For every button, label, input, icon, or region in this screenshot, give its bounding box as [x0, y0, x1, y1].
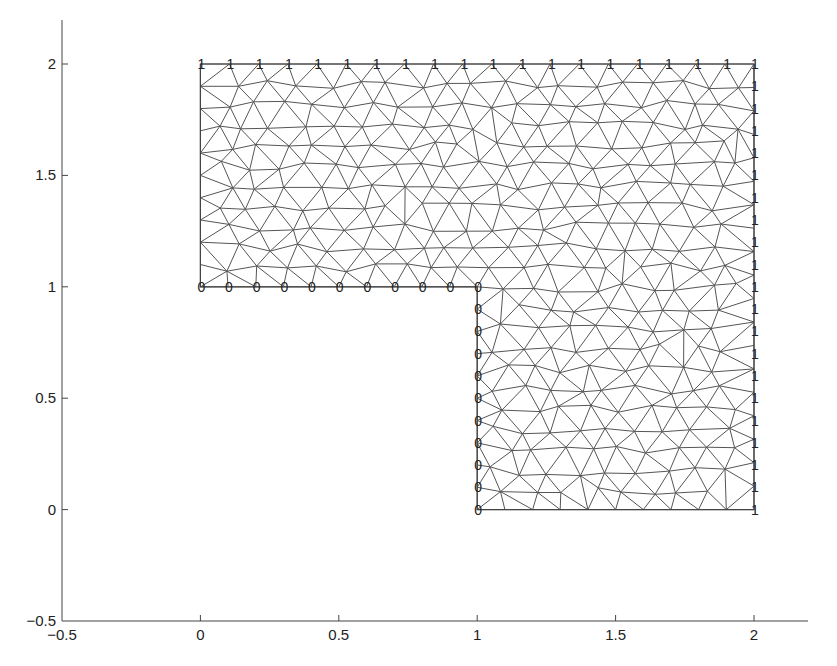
mesh-edge — [200, 224, 229, 242]
mesh-edge — [306, 104, 312, 127]
mesh-edge — [310, 228, 344, 231]
mesh-edge — [310, 208, 329, 228]
mesh-edge — [489, 268, 504, 289]
mesh-edge — [552, 183, 565, 207]
boundary-value-label: 0 — [474, 301, 482, 317]
mesh-edge — [622, 267, 641, 284]
mesh-edge — [424, 88, 433, 107]
mesh-edge — [712, 372, 720, 386]
mesh-edge — [459, 188, 472, 203]
mesh-edge — [424, 231, 433, 248]
mesh-edge — [304, 163, 336, 164]
mesh-edge — [707, 428, 730, 447]
mesh-edge — [398, 107, 425, 127]
mesh-edge — [275, 206, 303, 210]
mesh-edge — [327, 249, 364, 252]
mesh-edge — [569, 146, 577, 163]
mesh-edge — [584, 268, 598, 292]
mesh-edge — [544, 222, 577, 230]
mesh-edge — [512, 434, 522, 451]
mesh-edge — [628, 327, 640, 349]
mesh-edge — [663, 290, 675, 310]
mesh-edge — [720, 352, 754, 369]
x-tick-label: 0 — [196, 626, 204, 643]
mesh-edge — [608, 223, 625, 251]
mesh-edge — [503, 288, 533, 289]
mesh-edge — [612, 148, 642, 149]
mesh-edge — [601, 188, 618, 203]
mesh-edge — [652, 224, 660, 249]
mesh-edge — [635, 223, 652, 249]
mesh-edge — [534, 162, 552, 183]
mesh-edge — [373, 224, 405, 227]
mesh-edge — [395, 248, 425, 250]
mesh-edge — [538, 474, 546, 492]
mesh-edge — [538, 86, 558, 88]
mesh-edge — [233, 170, 250, 188]
mesh-edge — [596, 249, 625, 251]
mesh-edge — [501, 475, 520, 491]
mesh-edge — [540, 412, 550, 433]
boundary-value-label: 0 — [474, 435, 482, 451]
mesh-edge — [392, 124, 409, 149]
mesh-edge — [289, 145, 311, 146]
boundary-value-label: 1 — [548, 56, 556, 72]
mesh-edge — [655, 291, 663, 311]
mesh-edge — [565, 184, 579, 207]
mesh-edge — [671, 143, 676, 164]
mesh-edge — [526, 366, 535, 386]
mesh-edge — [558, 86, 576, 107]
mesh-edge — [650, 143, 670, 166]
mesh-edge — [250, 145, 256, 171]
mesh-edge — [473, 129, 497, 142]
boundary-value-label: 1 — [751, 190, 759, 206]
mesh-edge — [548, 243, 566, 264]
y-tick-label: 0 — [48, 501, 56, 518]
mesh-edge — [663, 310, 684, 330]
mesh-edge — [312, 104, 335, 126]
mesh-edge — [605, 473, 636, 474]
mesh-edge — [492, 108, 497, 143]
mesh-edge — [466, 203, 472, 231]
mesh-edge — [690, 184, 712, 210]
mesh-edge — [364, 249, 376, 264]
mesh-edge — [523, 434, 531, 450]
mesh-edge — [723, 186, 754, 205]
mesh-edge — [449, 188, 459, 203]
mesh-edge — [558, 392, 583, 407]
mesh-edge — [598, 121, 623, 123]
mesh-edge — [449, 203, 466, 231]
mesh-edge — [690, 184, 723, 186]
mesh-edge — [698, 329, 711, 347]
mesh-edge — [566, 222, 576, 243]
mesh-edge — [508, 246, 537, 248]
mesh-edge — [336, 164, 348, 188]
mesh-edge — [653, 310, 662, 332]
mesh-edge — [462, 103, 473, 129]
mesh-edge — [581, 431, 594, 449]
mesh-edge — [407, 248, 424, 264]
mesh-edge — [372, 185, 405, 187]
mesh-edge — [594, 447, 617, 449]
boundary-value-label: 1 — [751, 346, 759, 362]
mesh-edge — [655, 493, 675, 494]
mesh-edge — [548, 264, 558, 292]
boundary-value-label: 0 — [474, 346, 482, 362]
mesh-edge — [721, 224, 754, 252]
mesh-edge — [635, 453, 645, 474]
mesh-edge — [365, 185, 372, 209]
mesh-edge — [524, 264, 548, 267]
mesh-edge — [546, 474, 581, 475]
mesh-edge — [581, 405, 591, 431]
mesh-edge — [517, 104, 551, 105]
mesh-edge — [569, 122, 598, 123]
mesh-edge — [558, 406, 580, 431]
mesh-edge — [672, 367, 684, 394]
mesh-edge — [373, 206, 385, 227]
mesh-edge — [622, 251, 625, 284]
mesh-edge — [703, 104, 719, 125]
mesh-edge — [715, 265, 725, 285]
mesh-edge — [679, 227, 694, 251]
mesh-edge — [256, 128, 268, 144]
mesh-edge — [583, 390, 601, 391]
